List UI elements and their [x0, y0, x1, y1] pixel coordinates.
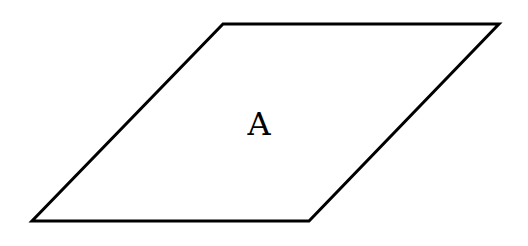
parallelogram-diagram: A: [0, 0, 528, 246]
shape-label: A: [246, 105, 271, 143]
